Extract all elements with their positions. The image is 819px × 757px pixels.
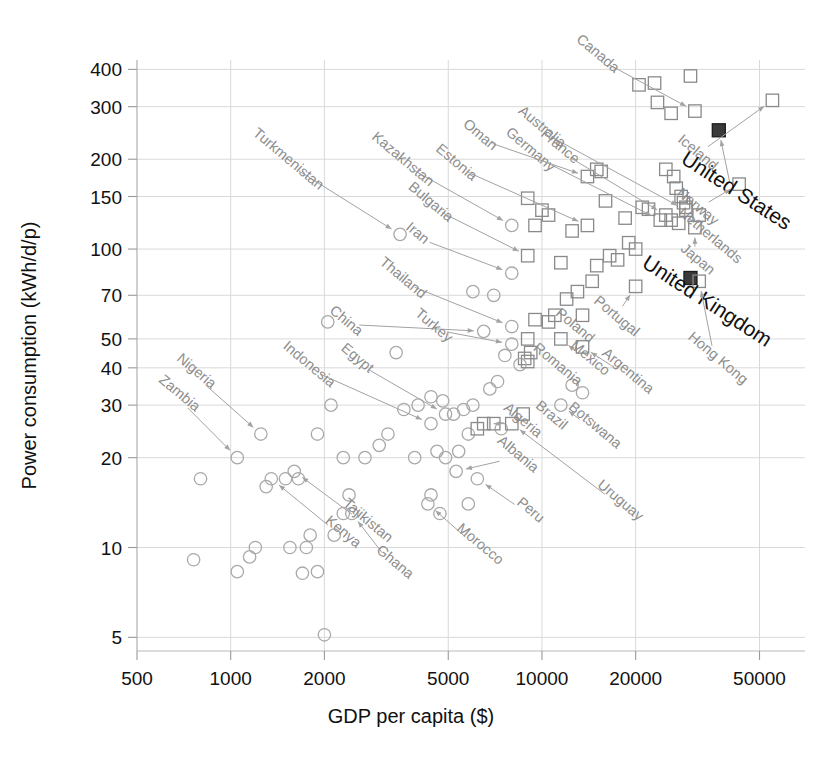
x-tick-label: 1000 [210, 668, 252, 689]
data-point-highlighted [712, 124, 725, 137]
data-point-circle [311, 565, 323, 577]
y-tick-label: 50 [101, 329, 122, 350]
data-point-square [566, 225, 578, 237]
data-point-circle [194, 473, 206, 485]
data-point-square [529, 313, 541, 325]
data-point-circle [506, 338, 518, 350]
annotation-label: Kazakhstan [369, 128, 437, 189]
data-point-circle [425, 391, 437, 403]
annotation-label: Indonesia [280, 338, 339, 391]
x-tick-label: 5000 [427, 668, 469, 689]
data-point-square [619, 212, 631, 224]
annotation-leader-line [442, 213, 519, 252]
data-point-square [522, 192, 534, 204]
data-point-square [586, 275, 598, 287]
y-tick-label: 150 [90, 187, 122, 208]
annotation-arrowhead [496, 318, 502, 323]
data-point-circle [478, 325, 490, 337]
data-point-circle [467, 285, 479, 297]
annotation-arrowhead [692, 238, 697, 244]
y-tick-label: 100 [90, 239, 122, 260]
annotation-label: Hong Kong [685, 328, 751, 387]
annotation-leader-line [542, 160, 651, 215]
y-tick-label: 40 [101, 358, 122, 379]
annotation-label: Thailand [377, 253, 430, 301]
x-axis-title: GDP per capita ($) [328, 705, 494, 727]
data-point-square [684, 70, 696, 82]
y-axis-title: Power consumption (kWh/d/p) [18, 222, 40, 490]
data-point-circle [279, 473, 291, 485]
data-point-square [581, 219, 593, 231]
annotation-arrowhead [486, 484, 492, 489]
data-point-circle [255, 428, 267, 440]
data-point-circle [292, 473, 304, 485]
annotation-leader-line [571, 158, 657, 210]
data-point-square [660, 209, 672, 221]
data-point-square [603, 250, 615, 262]
annotation-arrowhead [496, 339, 502, 344]
data-point-circle [390, 346, 402, 358]
y-tick-label: 30 [101, 395, 122, 416]
data-point-circle [462, 498, 474, 510]
annotation-label: Iran [403, 219, 432, 247]
data-point-square [529, 219, 541, 231]
annotation-arrowhead [468, 328, 474, 333]
x-tick-label: 20000 [609, 668, 662, 689]
annotation-arrowhead [572, 217, 578, 222]
data-point-circle [304, 529, 316, 541]
data-point-circle [439, 408, 451, 420]
data-point-square [591, 259, 603, 271]
annotation-leader-line [206, 385, 254, 427]
data-point-square [522, 250, 534, 262]
x-tick-label: 10000 [516, 668, 569, 689]
annotation-label: Oman [460, 116, 501, 154]
data-point-circle [576, 387, 588, 399]
annotation-arrowhead [497, 215, 503, 220]
annotation-label: Egypt [338, 340, 377, 376]
y-tick-label: 200 [90, 149, 122, 170]
data-point-circle [425, 417, 437, 429]
annotation-arrowhead [720, 140, 725, 146]
data-point-square [611, 254, 623, 266]
y-tick-label: 70 [101, 285, 122, 306]
data-point-square [766, 94, 778, 106]
annotation-arrowhead [680, 101, 686, 106]
annotation-label: Peru [514, 494, 548, 526]
annotation-label: Uruguay [595, 476, 648, 524]
data-point-square [667, 170, 679, 182]
data-point-circle [296, 567, 308, 579]
annotation-arrowhead [385, 224, 391, 229]
data-point-circle [462, 428, 474, 440]
chart-canvas: 5102030405070100150200300400500100020005… [0, 0, 819, 757]
annotation-leader-line [609, 65, 686, 107]
data-point-square [522, 355, 534, 367]
scatter-chart: 5102030405070100150200300400500100020005… [0, 0, 819, 757]
point-annotations: CanadaIcelandUnited StatesAustraliaNorwa… [156, 31, 796, 583]
y-tick-label: 5 [111, 627, 122, 648]
y-tick-label: 10 [101, 538, 122, 559]
data-point-circle [499, 349, 511, 361]
annotation-leader-line [430, 242, 503, 269]
data-point-circle [506, 320, 518, 332]
data-point-circle [452, 445, 464, 457]
data-point-circle [243, 551, 255, 563]
annotation-label: China [327, 302, 367, 339]
annotation-arrowhead [651, 205, 657, 210]
x-tick-label: 50000 [733, 668, 786, 689]
data-point-circle [491, 375, 503, 387]
annotation-arrowhead [415, 415, 421, 420]
annotation-label: Estonia [433, 140, 481, 184]
annotation-arrowhead [496, 265, 502, 270]
annotation-label: Morocco [454, 520, 507, 568]
data-point-circle [506, 219, 518, 231]
y-tick-label: 400 [90, 59, 122, 80]
data-point-square [555, 257, 567, 269]
x-tick-label: 500 [121, 668, 153, 689]
data-point-circle [288, 465, 300, 477]
data-point-circle [450, 465, 462, 477]
data-point-circle [311, 428, 323, 440]
data-point-square [665, 107, 677, 119]
data-point-circle [431, 445, 443, 457]
annotation-label: Portugal [591, 292, 643, 339]
data-point-circle [471, 473, 483, 485]
